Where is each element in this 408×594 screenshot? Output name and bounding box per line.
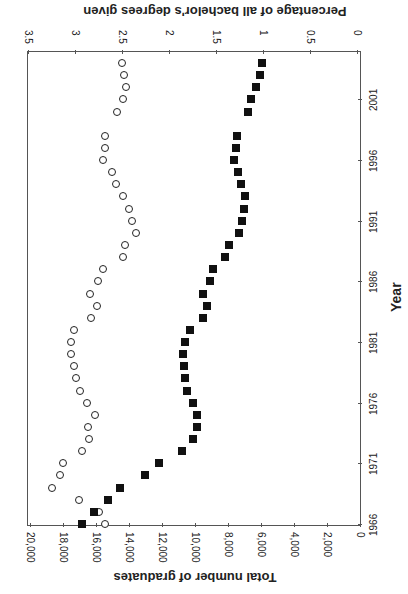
left-axis-tick-label: 18,000: [58, 532, 69, 563]
graduates-marker-square: [178, 447, 186, 455]
percentage-marker-circle: [86, 290, 94, 298]
graduates-marker-square: [186, 326, 194, 334]
left-axis-tick-label: 20,000: [25, 532, 36, 563]
percentage-marker-circle: [76, 387, 84, 395]
percentage-marker-circle: [101, 520, 109, 528]
right-axis-tick-label: 3: [70, 30, 81, 36]
left-axis-tick: [228, 523, 229, 527]
x-axis-title: Year: [388, 282, 404, 312]
graduates-marker-square: [193, 423, 201, 431]
percentage-marker-circle: [78, 447, 86, 455]
year-axis-tick: [358, 463, 362, 464]
graduates-marker-square: [206, 277, 214, 285]
left-axis-tick: [327, 523, 328, 527]
graduates-marker-square: [241, 192, 249, 200]
graduates-marker-square: [225, 241, 233, 249]
graduates-marker-square: [244, 108, 252, 116]
left-axis-tick-label: 10,000: [190, 532, 201, 563]
graduates-marker-square: [78, 520, 86, 528]
year-axis-tick-label: 2001: [368, 89, 379, 111]
right-axis-tick: [28, 50, 29, 54]
graduates-marker-square: [256, 71, 264, 79]
graduates-marker-square: [232, 144, 240, 152]
right-axis-tick: [75, 50, 76, 54]
graduates-marker-square: [116, 484, 124, 492]
right-axis-tick: [310, 50, 311, 54]
right-axis-tick: [357, 50, 358, 54]
year-axis-tick-label: 1971: [368, 453, 379, 475]
percentage-marker-circle: [83, 399, 91, 407]
left-axis-tick: [63, 523, 64, 527]
graduates-marker-square: [199, 314, 207, 322]
graduates-marker-square: [238, 217, 246, 225]
left-axis-tick: [261, 523, 262, 527]
graduates-marker-square: [240, 205, 248, 213]
year-axis-tick-label: 1981: [368, 332, 379, 354]
graduates-marker-square: [180, 362, 188, 370]
graduates-marker-square: [183, 387, 191, 395]
year-axis-tick: [358, 524, 362, 525]
left-axis-tick: [162, 523, 163, 527]
left-axis-tick-label: 0: [355, 532, 366, 538]
right-axis-tick-label: 1.5: [211, 30, 222, 44]
graduates-marker-square: [104, 496, 112, 504]
left-axis-tick-label: 14,000: [124, 532, 135, 563]
graduates-marker-square: [155, 459, 163, 467]
left-axis-tick: [195, 523, 196, 527]
percentage-marker-circle: [118, 59, 126, 67]
right-axis-tick: [169, 50, 170, 54]
graduates-marker-square: [235, 229, 243, 237]
graduates-marker-square: [189, 399, 197, 407]
right-axis-tick: [263, 50, 264, 54]
left-axis-tick-label: 12,000: [157, 532, 168, 563]
year-axis-tick: [358, 160, 362, 161]
left-axis-tick: [30, 523, 31, 527]
plot-frame: [27, 51, 361, 526]
left-axis-title: Total number of graduates: [114, 570, 277, 585]
percentage-marker-circle: [101, 144, 109, 152]
right-axis-tick-label: 1: [258, 30, 269, 36]
right-axis-tick-label: 0: [352, 30, 363, 36]
left-axis-tick-label: 2,000: [322, 532, 333, 557]
percentage-marker-circle: [113, 108, 121, 116]
year-axis-tick: [358, 403, 362, 404]
graduates-marker-square: [252, 83, 260, 91]
percentage-marker-circle: [87, 314, 95, 322]
graduates-marker-square: [141, 471, 149, 479]
left-axis-tick-label: 6,000: [256, 532, 267, 557]
year-axis-tick: [358, 99, 362, 100]
right-axis-tick-label: 3.5: [23, 30, 34, 44]
graduates-marker-square: [199, 290, 207, 298]
left-axis-tick-label: 8,000: [223, 532, 234, 557]
left-axis-tick: [129, 523, 130, 527]
graduates-marker-square: [203, 302, 211, 310]
graduates-marker-square: [221, 253, 229, 261]
graduates-marker-square: [179, 350, 187, 358]
graduates-marker-square: [233, 132, 241, 140]
year-axis-tick: [358, 342, 362, 343]
right-axis-title: Percentage of all bachelor's degrees giv…: [83, 4, 346, 19]
percentage-marker-circle: [75, 496, 83, 504]
left-axis-tick-label: 4,000: [289, 532, 300, 557]
right-axis-tick: [216, 50, 217, 54]
left-axis-tick-label: 16,000: [91, 532, 102, 563]
graduates-marker-square: [230, 156, 238, 164]
year-axis-tick: [358, 221, 362, 222]
left-axis-tick: [96, 523, 97, 527]
percentage-marker-circle: [125, 205, 133, 213]
percentage-marker-circle: [93, 302, 101, 310]
graduates-marker-square: [189, 435, 197, 443]
percentage-marker-circle: [101, 132, 109, 140]
percentage-marker-circle: [70, 326, 78, 334]
right-axis-tick-label: 0.5: [305, 30, 316, 44]
graduates-marker-square: [237, 180, 245, 188]
percentage-marker-circle: [108, 168, 116, 176]
year-axis-tick-label: 1966: [368, 514, 379, 536]
graduates-marker-square: [90, 508, 98, 516]
percentage-marker-circle: [121, 241, 129, 249]
year-axis-tick-label: 1991: [368, 211, 379, 233]
percentage-marker-circle: [94, 277, 102, 285]
rotated-scatter-chart: 02,0004,0006,0008,00010,00012,00014,0001…: [0, 0, 408, 594]
graduates-marker-square: [234, 168, 242, 176]
graduates-marker-square: [181, 374, 189, 382]
